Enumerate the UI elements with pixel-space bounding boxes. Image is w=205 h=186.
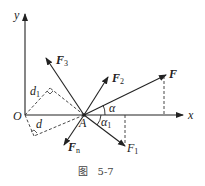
d1-right-angle-mark — [47, 91, 53, 94]
figure-caption: 图 5-7 — [78, 166, 114, 177]
force-Fn-label: Fn — [67, 140, 80, 155]
force-F-label: F — [168, 67, 177, 81]
distance-d-label: d — [36, 117, 43, 131]
force-F1-label: F1 — [126, 141, 138, 156]
force-F2-label: F2 — [111, 71, 124, 86]
angle-alpha-label: α — [109, 101, 116, 115]
angle-alpha1-label: α1 — [101, 115, 111, 130]
d-perp-line — [25, 115, 34, 136]
force-F3-label: F3 — [55, 53, 68, 68]
force-diagram: y x O A F F2 F3 F1 Fn α α1 d1 d 图 5-7 — [0, 0, 205, 186]
origin-label: O — [13, 109, 22, 123]
alpha-arc — [103, 105, 105, 115]
y-axis-label: y — [13, 8, 20, 22]
x-axis-label: x — [187, 108, 194, 122]
point-A-label: A — [78, 116, 87, 130]
d1-dashed-line — [50, 88, 84, 115]
distance-d1-label: d1 — [30, 84, 40, 99]
